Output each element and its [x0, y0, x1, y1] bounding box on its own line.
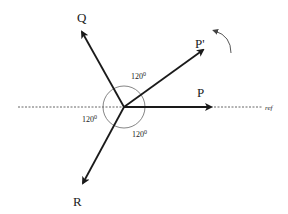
label-p-prime: P' — [195, 36, 205, 51]
angle-label-top: 1200 — [131, 71, 146, 81]
rotation-arrow-icon — [215, 31, 231, 53]
reference-label: ref — [265, 104, 274, 112]
phasor-svg: ref Q R P' P 1200 1200 1200 — [0, 0, 288, 214]
label-r: R — [73, 194, 82, 209]
label-q: Q — [77, 10, 87, 25]
label-p: P — [197, 85, 204, 100]
phasor-diagram: ref Q R P' P 1200 1200 1200 — [0, 0, 288, 214]
phasor-q-arrow — [82, 32, 124, 107]
angle-label-bottom: 1200 — [132, 129, 147, 139]
angle-label-left: 1200 — [82, 114, 97, 124]
